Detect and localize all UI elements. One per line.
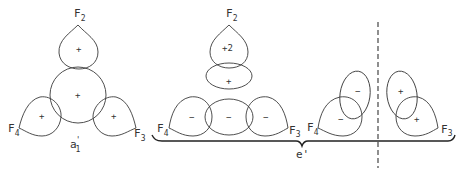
sign-top: + (76, 44, 82, 54)
sign-bottom-left: − (189, 112, 195, 122)
orbital-diagram: + + + + F2 F4 F3 a'1 +2 + − − − F2 F4 F3 (0, 0, 458, 171)
sign-middle: + (226, 76, 232, 86)
sign-top: +2 (222, 43, 233, 53)
sign-left: + (39, 111, 45, 121)
panel-e-prime-2: − − + + F4 F3 (307, 22, 453, 168)
atom-label-f4: F4 (157, 122, 169, 138)
atom-label-f3: F3 (441, 123, 453, 138)
sign-left-lobe: − (338, 114, 344, 124)
atom-label-f2: F2 (226, 7, 238, 23)
sign-center: + (75, 90, 81, 100)
atom-label-f4: F4 (307, 121, 319, 137)
atom-label-f4: F4 (8, 122, 20, 138)
brace-line (152, 135, 455, 146)
sign-right: + (111, 111, 117, 121)
atom-label-f3: F3 (134, 127, 146, 143)
panel-e-prime-1: +2 + − − − F2 F4 F3 (157, 7, 301, 139)
sign-right-ellipse: + (398, 86, 404, 96)
panel-a1-prime: + + + + F2 F4 F3 a'1 (8, 7, 146, 154)
symmetry-label-e-prime: e' (296, 148, 309, 161)
sign-left-ellipse: − (355, 86, 361, 96)
sign-right-lobe: + (414, 114, 420, 124)
sign-bottom-right: − (263, 112, 269, 122)
atom-label-f2: F2 (74, 7, 86, 23)
atom-label-f3: F3 (289, 124, 301, 139)
e-prime-brace: e' (152, 135, 455, 161)
sign-bottom-center: − (226, 112, 232, 122)
symmetry-label-a1: a'1 (70, 136, 80, 154)
